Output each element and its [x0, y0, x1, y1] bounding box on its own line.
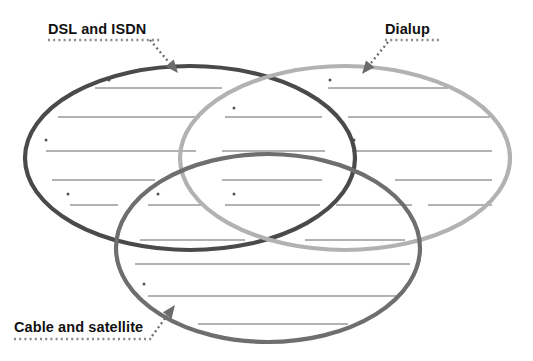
rule-lines-group: [45, 79, 493, 325]
label-text-cable-satellite: Cable and satellite: [14, 319, 143, 335]
label-text-dsl-isdn: DSL and ISDN: [48, 21, 146, 37]
label-text-dialup: Dialup: [385, 21, 430, 37]
ellipses-group: [25, 66, 510, 342]
arrow-tail-dsl-isdn: [150, 40, 170, 63]
venn-diagram-worksheet: DSL and ISDNDialupCable and satellite: [0, 0, 533, 361]
label-dsl-isdn[interactable]: DSL and ISDN: [48, 21, 178, 73]
venn-diagram-canvas: DSL and ISDNDialupCable and satellite: [0, 0, 533, 361]
bullet-dot-dsl-only-3: [45, 139, 48, 142]
bullet-dot-center-all-5: [233, 193, 236, 196]
arrow-tail-cable-satellite: [152, 315, 167, 336]
bullet-dot-dsl-only-5: [67, 193, 70, 196]
bullet-dot-dialup-only-1: [329, 79, 332, 82]
bullet-dot-cable-only-8: [143, 283, 146, 286]
bullet-dot-dsl-cable-5: [157, 193, 160, 196]
arrow-tail-dialup: [370, 42, 388, 64]
bullet-dot-dsl-dialup-2: [233, 107, 236, 110]
